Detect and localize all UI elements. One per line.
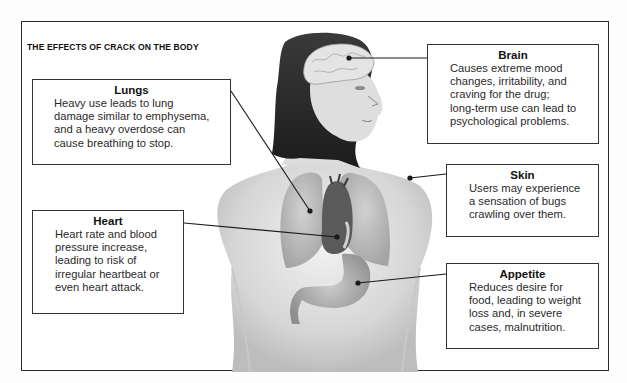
callout-lungs-heading: Lungs bbox=[33, 84, 230, 97]
lungs-pointer-dot bbox=[307, 208, 312, 213]
callout-lungs-text: Heavy use leads to lung damage similar t… bbox=[33, 97, 230, 150]
appetite-pointer-dot bbox=[355, 280, 360, 285]
skin-connector bbox=[410, 174, 446, 178]
heart-pointer-dot bbox=[334, 234, 339, 239]
callout-heart-heading: Heart bbox=[33, 215, 183, 228]
callout-skin-text: Users may experience a sensation of bugs… bbox=[447, 182, 598, 222]
callout-heart-text: Heart rate and blood pressure increase, … bbox=[33, 228, 183, 294]
callout-heart: Heart Heart rate and blood pressure incr… bbox=[32, 210, 184, 314]
callout-brain-heading: Brain bbox=[428, 49, 598, 62]
skin-pointer-dot bbox=[407, 175, 412, 180]
callout-appetite-text: Reduces desire for food, leading to weig… bbox=[447, 281, 598, 334]
callout-appetite-heading: Appetite bbox=[447, 268, 598, 281]
torso-shape bbox=[217, 160, 432, 372]
callout-brain-text: Causes extreme mood changes, irritabilit… bbox=[428, 62, 598, 128]
callout-lungs: Lungs Heavy use leads to lung damage sim… bbox=[32, 79, 231, 165]
callout-appetite: Appetite Reduces desire for food, leadin… bbox=[446, 263, 599, 349]
callout-skin: Skin Users may experience a sensation of… bbox=[446, 164, 599, 237]
callout-brain: Brain Causes extreme mood changes, irrit… bbox=[427, 44, 599, 144]
brain-pointer-dot bbox=[346, 55, 351, 60]
callout-skin-heading: Skin bbox=[447, 169, 598, 182]
